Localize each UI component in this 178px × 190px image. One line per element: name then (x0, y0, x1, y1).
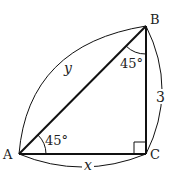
vertex-label-c: C (150, 147, 160, 162)
angle-arc-b (126, 46, 146, 54)
side-label-ab: y (63, 60, 73, 76)
angle-label-a: 45° (45, 133, 68, 148)
side-label-bc: 3 (156, 89, 165, 105)
triangle-diagram: A B C 45° 45° y 3 x (0, 0, 178, 190)
angle-label-b: 45° (120, 56, 143, 71)
vertex-label-b: B (150, 12, 160, 27)
right-angle-marker (134, 142, 146, 154)
side-label-ac: x (84, 157, 92, 173)
vertex-label-a: A (2, 147, 13, 162)
